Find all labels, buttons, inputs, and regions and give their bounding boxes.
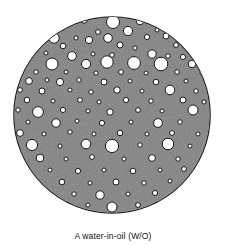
water-droplet — [176, 157, 180, 161]
water-droplet — [175, 70, 180, 75]
water-droplet — [128, 57, 141, 70]
water-droplet — [72, 192, 76, 196]
water-droplet — [68, 130, 72, 134]
water-droplet — [148, 50, 156, 58]
water-droplet — [140, 89, 144, 93]
water-droplet — [107, 16, 120, 29]
water-droplet — [90, 155, 95, 160]
water-droplet — [60, 43, 66, 49]
water-droplet — [88, 181, 92, 185]
water-droplet — [33, 107, 44, 118]
water-droplet — [104, 34, 113, 43]
water-droplet — [130, 168, 136, 174]
water-droplet — [180, 97, 186, 103]
water-droplet — [74, 36, 78, 40]
water-droplet — [51, 99, 55, 103]
water-droplet — [188, 45, 192, 49]
water-droplet — [34, 70, 38, 74]
water-droplet — [149, 99, 153, 103]
water-droplet — [154, 57, 168, 71]
water-droplet — [136, 203, 141, 208]
water-droplet — [162, 138, 174, 150]
water-droplet — [129, 120, 133, 124]
water-droplet — [96, 30, 101, 35]
water-droplet — [142, 181, 146, 185]
water-droplet — [89, 90, 93, 94]
water-droplet — [96, 191, 104, 199]
water-droplet — [138, 143, 142, 147]
water-droplet — [16, 108, 20, 112]
water-droplet — [81, 139, 91, 149]
water-droplet — [144, 34, 149, 39]
water-droplet — [18, 88, 23, 93]
water-droplet — [48, 168, 52, 172]
water-droplet — [123, 97, 128, 102]
water-droplet — [45, 78, 49, 82]
water-droplet — [75, 119, 79, 123]
water-droplet — [202, 100, 206, 104]
water-droplet — [119, 70, 124, 75]
water-droplet — [64, 70, 68, 74]
water-droplet — [39, 88, 45, 94]
water-droplet — [68, 52, 77, 61]
water-droplet — [26, 120, 30, 124]
water-droplet — [52, 119, 60, 127]
water-droplet — [196, 132, 200, 136]
water-droplet — [75, 168, 80, 173]
water-droplet — [194, 89, 198, 93]
water-droplet — [117, 130, 123, 136]
water-droplet — [152, 190, 157, 195]
water-droplet — [165, 85, 175, 95]
water-droplet — [178, 120, 182, 124]
water-droplet — [149, 155, 156, 162]
water-droplet — [168, 179, 172, 183]
water-droplet — [78, 98, 83, 103]
water-droplet — [153, 79, 159, 85]
water-droplet — [81, 59, 90, 68]
water-droplet — [28, 52, 33, 57]
water-droplet — [46, 58, 58, 70]
water-droplet — [122, 157, 126, 161]
water-droplet — [36, 43, 40, 47]
water-droplet — [58, 144, 62, 148]
water-droplet — [136, 108, 141, 113]
water-droplet — [180, 54, 185, 59]
water-droplet — [77, 78, 81, 82]
water-droplet — [91, 52, 95, 56]
water-droplet — [101, 79, 107, 85]
water-droplet — [188, 144, 192, 148]
water-droplet — [26, 139, 37, 150]
water-droplet — [184, 79, 188, 83]
water-droplet — [154, 119, 163, 128]
water-droplet — [102, 168, 106, 172]
water-droplet — [44, 51, 48, 55]
water-droplet — [117, 42, 123, 48]
water-droplet — [26, 78, 33, 85]
water-droplet — [123, 26, 132, 35]
water-droplet — [92, 132, 96, 136]
water-droplet — [101, 56, 113, 68]
water-droplet — [59, 179, 65, 185]
water-droplet — [64, 157, 68, 161]
water-droplet — [56, 78, 63, 85]
figure-caption: A water-in-oil (W/O) — [0, 231, 226, 241]
water-droplet — [94, 71, 98, 75]
water-droplet — [188, 105, 198, 115]
water-droplet — [42, 132, 46, 136]
water-droplet — [36, 154, 44, 162]
water-droplet — [133, 46, 137, 50]
water-droplet — [99, 120, 104, 125]
water-droplet — [174, 43, 179, 48]
water-droplet — [182, 167, 187, 172]
water-droplet — [105, 139, 118, 152]
water-droplet — [114, 87, 120, 93]
water-droplet — [97, 100, 101, 104]
water-droplet — [170, 131, 175, 136]
water-droplet — [86, 109, 90, 113]
water-droplet — [60, 107, 65, 112]
water-droplet — [128, 79, 132, 83]
water-droplet — [107, 109, 113, 115]
water-droplet — [17, 130, 24, 137]
emulsion-diagram — [0, 0, 226, 228]
water-droplet — [22, 61, 26, 65]
